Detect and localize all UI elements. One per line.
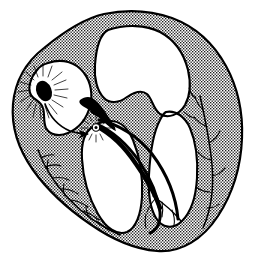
heart-conduction-diagram <box>0 0 255 275</box>
figure-root <box>0 0 255 275</box>
myocardial-wall-fill <box>0 0 255 275</box>
myocardium-group <box>0 0 255 275</box>
burst-core <box>95 126 98 129</box>
